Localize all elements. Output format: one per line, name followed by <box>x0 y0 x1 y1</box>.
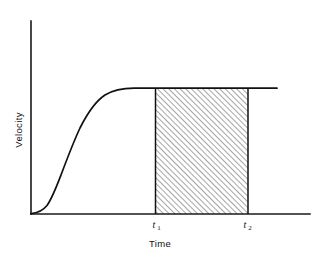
t2-symbol: t <box>244 219 247 230</box>
t2-subscript: 2 <box>248 224 252 232</box>
y-axis-title: Velocity <box>13 112 24 148</box>
velocity-time-figure: Velocity Time t 1 t 2 <box>0 0 329 259</box>
t1-subscript: 1 <box>157 224 161 232</box>
hatch-fill <box>156 89 249 215</box>
hatched-region <box>156 89 249 215</box>
t1-symbol: t <box>153 219 156 230</box>
x-axis-title: Time <box>149 238 171 249</box>
velocity-time-chart: Velocity Time t 1 t 2 <box>0 0 329 259</box>
